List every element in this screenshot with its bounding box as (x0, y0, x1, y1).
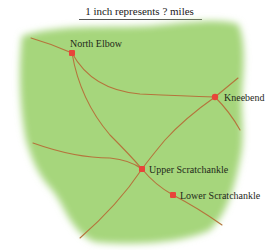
land-region (20, 21, 244, 244)
town-marker-kneebend[interactable] (212, 94, 218, 100)
town-label-lower-scratchankle: Lower Scratchankle (180, 190, 260, 201)
town-marker-north-elbow[interactable] (69, 50, 75, 56)
town-marker-upper-scratchankle[interactable] (139, 166, 145, 172)
town-label-north-elbow: North Elbow (70, 38, 122, 49)
map-canvas (0, 0, 279, 250)
town-label-upper-scratchankle: Upper Scratchankle (149, 164, 228, 175)
town-marker-lower-scratchankle[interactable] (170, 192, 176, 198)
town-label-kneebend: Kneebend (224, 92, 265, 103)
